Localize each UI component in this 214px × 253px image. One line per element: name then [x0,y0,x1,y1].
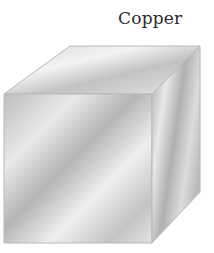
copper-cube [0,0,214,253]
cube-front-face [4,94,152,243]
